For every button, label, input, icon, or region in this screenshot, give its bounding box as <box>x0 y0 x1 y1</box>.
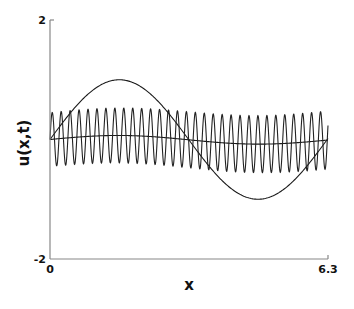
series-fast-oscillation <box>50 108 328 173</box>
x-tick-label-max: 6.3 <box>318 263 338 276</box>
line-chart: 2 -2 0 6.3 x u(x,t) <box>0 0 354 309</box>
y-axis-title: u(x,t) <box>15 120 33 167</box>
plot-area <box>50 80 328 200</box>
y-tick-label-min: -2 <box>34 253 46 266</box>
x-tick-label-min: 0 <box>46 263 54 276</box>
x-axis-title: x <box>184 276 194 294</box>
y-tick-label-max: 2 <box>38 14 46 27</box>
